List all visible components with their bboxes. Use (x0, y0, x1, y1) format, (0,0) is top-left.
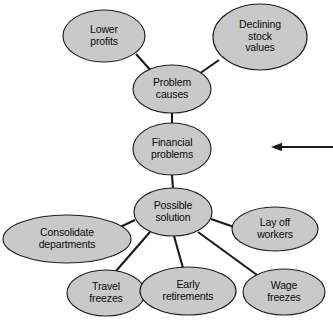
node-label-lower-profits: profits (90, 35, 118, 47)
edge-declining-stock (199, 60, 219, 74)
node-label-travel-freezes: Travel (92, 280, 120, 292)
node-consolidate-departments[interactable]: Consolidatedepartments (3, 215, 131, 263)
node-label-possible-solution: solution (156, 211, 191, 223)
node-label-financial-problems: problems (151, 148, 193, 160)
node-label-lay-off-workers: workers (256, 228, 293, 240)
edge-solution-layoff (211, 219, 234, 227)
nodes-layer: LowerprofitsDecliningstockvaluesProblemc… (3, 4, 325, 316)
node-early-retirements[interactable]: Earlyretirements (140, 267, 236, 315)
node-label-declining-stock-values: Declining (239, 18, 281, 30)
node-travel-freezes[interactable]: Travelfreezes (67, 270, 145, 316)
node-possible-solution[interactable]: Possiblesolution (134, 188, 212, 236)
annotation-arrow-layer (271, 143, 333, 151)
node-wage-freezes[interactable]: Wagefreezes (243, 269, 325, 315)
edge-solution-early (174, 236, 183, 268)
node-label-possible-solution: Possible (154, 199, 193, 211)
node-lower-profits[interactable]: Lowerprofits (63, 10, 145, 62)
node-problem-causes[interactable]: Problemcauses (133, 65, 211, 113)
node-financial-problems[interactable]: Financialproblems (133, 123, 211, 175)
node-label-problem-causes: causes (156, 88, 188, 100)
node-label-wage-freezes: freezes (267, 291, 300, 303)
node-label-lay-off-workers: Lay off (260, 216, 291, 228)
node-label-consolidate-departments: departments (39, 238, 96, 250)
node-label-early-retirements: retirements (163, 290, 214, 302)
node-label-lower-profits: Lower (90, 23, 119, 35)
node-label-travel-freezes: freezes (89, 292, 122, 304)
node-label-problem-causes: Problem (153, 76, 191, 88)
node-declining-stock-values[interactable]: Decliningstockvalues (213, 4, 307, 70)
concept-map-diagram: LowerprofitsDecliningstockvaluesProblemc… (0, 0, 333, 322)
concept-map-canvas: LowerprofitsDecliningstockvaluesProblemc… (0, 0, 333, 322)
node-label-declining-stock-values: values (245, 41, 274, 53)
node-label-financial-problems: Financial (152, 136, 193, 148)
node-label-consolidate-departments: Consolidate (40, 226, 94, 238)
node-label-declining-stock-values: stock (248, 30, 273, 42)
edge-financial-solution (172, 175, 173, 189)
node-label-early-retirements: Early (176, 278, 200, 290)
annotation-arrow-head-icon (271, 143, 282, 151)
node-lay-off-workers[interactable]: Lay offworkers (232, 207, 318, 251)
node-label-wage-freezes: Wage (271, 279, 298, 291)
